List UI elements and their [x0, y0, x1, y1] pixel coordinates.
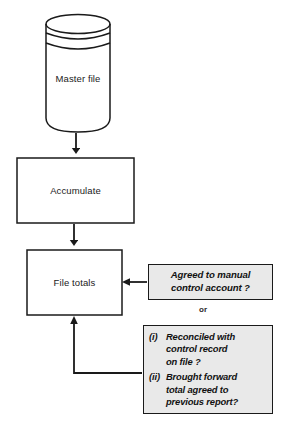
- arrow-note2-to-file-totals: [70, 316, 142, 373]
- accumulate-label: Accumulate: [17, 185, 134, 196]
- note-line: control record: [166, 343, 268, 355]
- note-item: (i) Reconciled with control record on fi…: [149, 331, 268, 368]
- note-item-text: Reconciled with control record on file ?: [166, 331, 268, 368]
- note-line: Brought forward: [166, 371, 268, 383]
- note-line: control account ?: [154, 282, 267, 295]
- note-line: previous report?: [166, 396, 268, 408]
- master-file-label: Master file: [45, 73, 111, 84]
- note-line: Agreed to manual: [154, 269, 267, 282]
- note-line: total agreed to: [166, 384, 268, 396]
- note-item-marker: (i): [149, 331, 166, 343]
- note-box-agreed-to-manual-control: Agreed to manual control account ?: [148, 264, 273, 300]
- note-item-text: Brought forward total agreed to previous…: [166, 371, 268, 408]
- note-line: Reconciled with: [166, 331, 268, 343]
- note-line: on file ?: [166, 356, 268, 368]
- note-item-marker: (ii): [149, 371, 166, 383]
- arrow-note1-to-file-totals: [122, 278, 147, 286]
- file-totals-label: File totals: [27, 277, 122, 288]
- note-box-reconciliation-checks: (i) Reconciled with control record on fi…: [143, 325, 273, 414]
- or-connector-label: or: [183, 305, 223, 314]
- note-item: (ii) Brought forward total agreed to pre…: [149, 371, 268, 408]
- flowchart-diagram: Master file Accumulate File totals or Ag…: [0, 0, 292, 438]
